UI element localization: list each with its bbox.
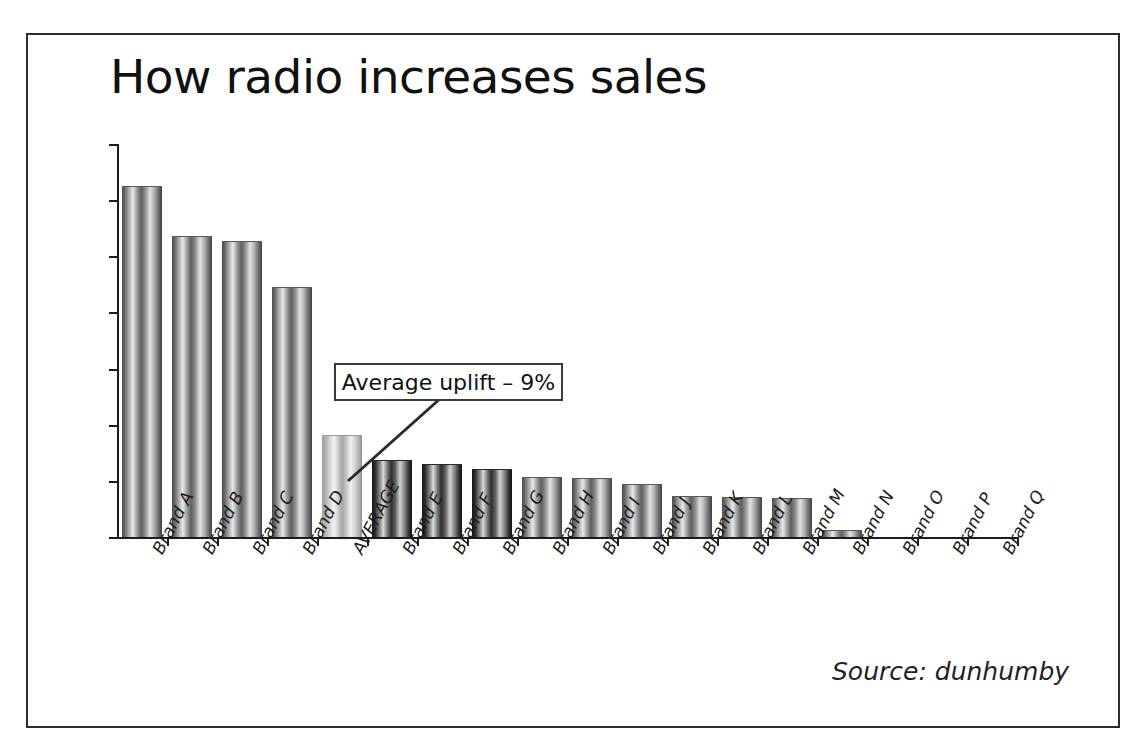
- bar-brand-a: [122, 186, 162, 537]
- y-tick-mark: [109, 425, 117, 427]
- chart-title: How radio increases sales: [110, 48, 910, 106]
- x-axis-labels: Brand ABrand BBrand CBrand DAVERAGEBrand…: [117, 548, 1017, 658]
- y-tick-mark: [109, 369, 117, 371]
- y-tick-mark: [109, 200, 117, 202]
- annotation-box: Average uplift – 9%: [334, 363, 563, 401]
- y-tick-mark: [109, 481, 117, 483]
- bar-series: [117, 144, 1017, 537]
- annotation-label: Average uplift – 9%: [342, 370, 555, 395]
- source-note: Source: dunhumby: [832, 657, 1069, 686]
- slide-canvas: How radio increases sales 05101520253035…: [0, 0, 1147, 754]
- y-tick-mark: [109, 256, 117, 258]
- plot-area: [117, 144, 1017, 537]
- y-tick-mark: [109, 537, 117, 539]
- y-tick-mark: [109, 312, 117, 314]
- y-tick-mark: [109, 144, 117, 146]
